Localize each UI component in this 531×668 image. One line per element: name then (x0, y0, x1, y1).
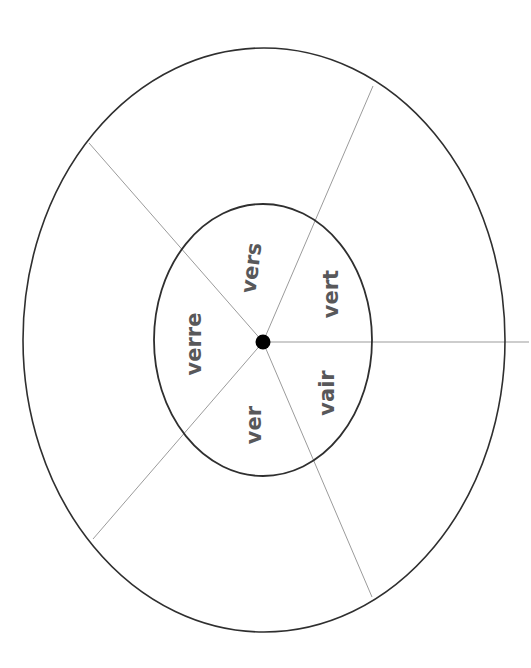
spoke-group (89, 86, 529, 597)
sector-label-verre: verre (184, 313, 205, 376)
sector-label-vair: vair (317, 370, 338, 415)
spoke-lower-left (93, 342, 263, 539)
sector-label-vert: vert (321, 270, 342, 318)
sector-label-ver: ver (244, 406, 265, 444)
radial-wheel-diagram (0, 0, 531, 668)
diagram-canvas: versvertvairververre (0, 0, 531, 668)
spoke-upper-left (89, 143, 263, 342)
center-node (256, 335, 271, 350)
